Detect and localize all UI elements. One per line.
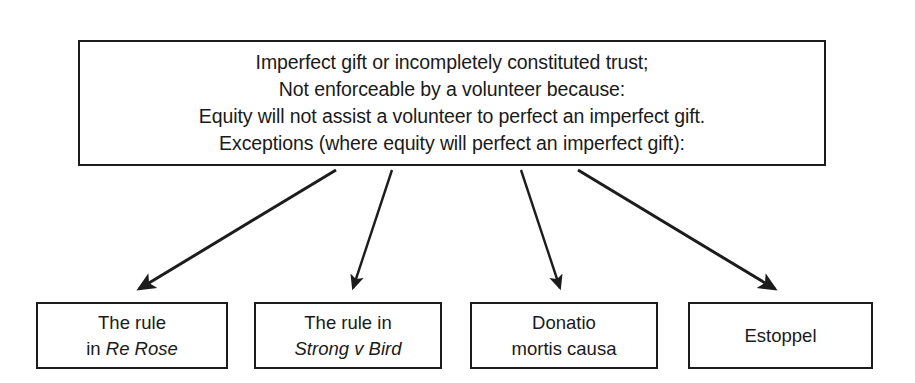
top-statement-line-2: Not enforceable by a volunteer because: — [199, 76, 705, 103]
diagram-canvas: Imperfect gift or incompletely constitut… — [0, 0, 915, 383]
exception-box-strong-v-bird: The rule in Strong v Bird — [254, 302, 442, 369]
exception-box-re-rose: The rule in Re Rose — [36, 302, 228, 369]
top-statement-line-3: Equity will not assist a volunteer to pe… — [199, 103, 705, 130]
exception-line-1: The rule in — [295, 310, 402, 336]
exception-line-2-prefix: in — [86, 338, 106, 359]
exception-case-name: Strong v Bird — [295, 338, 402, 359]
arrow-to-estoppel — [578, 170, 775, 289]
exception-box-estoppel: Estoppel — [688, 302, 873, 369]
exception-line-2: in Re Rose — [86, 336, 178, 362]
exception-line-2: Strong v Bird — [295, 336, 402, 362]
exception-line-1: Estoppel — [745, 323, 817, 349]
exception-case-name: Re Rose — [106, 338, 178, 359]
exception-line-1: The rule — [86, 310, 178, 336]
top-statement-line-4: Exceptions (where equity will perfect an… — [199, 130, 705, 157]
arrow-to-strong-v-bird — [353, 170, 392, 288]
exception-label-re-rose: The rule in Re Rose — [86, 310, 178, 362]
arrow-to-donatio-mortis-causa — [521, 170, 560, 288]
exception-box-donatio-mortis-causa: Donatio mortis causa — [470, 302, 658, 369]
top-statement-box: Imperfect gift or incompletely constitut… — [78, 40, 826, 166]
exception-line-2: mortis causa — [512, 336, 617, 362]
exception-label-donatio-mortis-causa: Donatio mortis causa — [512, 310, 617, 362]
exception-line-1: Donatio — [512, 310, 617, 336]
top-statement-line-1: Imperfect gift or incompletely constitut… — [199, 49, 705, 76]
exception-label-estoppel: Estoppel — [745, 323, 817, 349]
exception-label-strong-v-bird: The rule in Strong v Bird — [295, 310, 402, 362]
top-statement-text: Imperfect gift or incompletely constitut… — [199, 49, 705, 157]
arrow-to-re-rose — [139, 170, 336, 289]
